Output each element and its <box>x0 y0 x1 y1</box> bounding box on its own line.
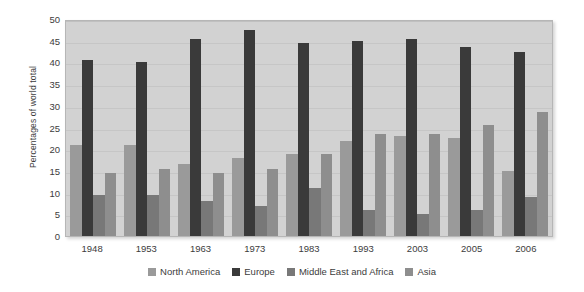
bar-group-2005 <box>444 21 498 236</box>
bar-europe-2005 <box>460 47 472 236</box>
x-axis-tick-labels: 194819531963197319831993200320052006 <box>65 243 553 254</box>
y-axis-tick-45: 45 <box>36 37 60 47</box>
y-axis-tick-40: 40 <box>36 59 60 69</box>
plot-area <box>65 20 553 237</box>
x-axis-tick-2005: 2005 <box>445 243 499 254</box>
bar-europe-1973 <box>244 30 256 236</box>
bar-group-2006 <box>498 21 552 236</box>
legend-swatch-icon <box>405 268 413 276</box>
bar-middle-east-and-africa-1973 <box>255 206 267 236</box>
y-axis-tick-5: 5 <box>36 211 60 221</box>
bar-asia-2006 <box>537 112 549 236</box>
bar-north-america-2005 <box>448 138 460 236</box>
bar-asia-2003 <box>429 134 441 236</box>
bar-slots <box>444 21 498 236</box>
bar-middle-east-and-africa-2005 <box>471 210 483 236</box>
legend-label: Asia <box>417 266 435 277</box>
legend-label: North America <box>160 266 220 277</box>
bar-europe-1948 <box>82 60 94 236</box>
bar-chart: Percentages of world total 5045403530252… <box>0 0 584 292</box>
bar-group-1993 <box>336 21 390 236</box>
bar-group-1983 <box>282 21 336 236</box>
y-axis-tick-35: 35 <box>36 80 60 90</box>
y-axis-tick-10: 10 <box>36 189 60 199</box>
bar-middle-east-and-africa-1963 <box>201 201 213 236</box>
bar-slots <box>336 21 390 236</box>
bar-group-2003 <box>390 21 444 236</box>
y-axis-tick-15: 15 <box>36 167 60 177</box>
x-axis-tick-2006: 2006 <box>499 243 553 254</box>
legend-label: Europe <box>244 266 275 277</box>
y-axis-tick-0: 0 <box>36 232 60 242</box>
bar-north-america-1993 <box>340 141 352 236</box>
bar-north-america-1948 <box>70 145 82 236</box>
bar-asia-1963 <box>213 173 225 236</box>
y-axis-tick-30: 30 <box>36 102 60 112</box>
bar-europe-1993 <box>352 41 364 236</box>
x-axis-tick-1973: 1973 <box>228 243 282 254</box>
bar-europe-2006 <box>514 52 526 236</box>
bar-asia-1953 <box>159 169 171 236</box>
bar-north-america-2003 <box>394 136 406 236</box>
bar-slots <box>66 21 120 236</box>
bar-middle-east-and-africa-1948 <box>93 195 105 236</box>
y-axis-tick-20: 20 <box>36 145 60 155</box>
bar-north-america-1973 <box>232 158 244 236</box>
legend-item-north-america[interactable]: North America <box>148 266 220 277</box>
legend-label: Middle East and Africa <box>299 266 394 277</box>
bar-europe-1963 <box>190 39 202 236</box>
bar-asia-1973 <box>267 169 279 236</box>
bar-slots <box>120 21 174 236</box>
bar-slots <box>174 21 228 236</box>
bar-group-1948 <box>66 21 120 236</box>
x-axis-tick-1983: 1983 <box>282 243 336 254</box>
x-axis-tick-1963: 1963 <box>173 243 227 254</box>
bar-asia-1993 <box>375 134 387 236</box>
bar-middle-east-and-africa-2003 <box>417 214 429 236</box>
bar-slots <box>498 21 552 236</box>
bar-middle-east-and-africa-2006 <box>525 197 537 236</box>
bar-asia-2005 <box>483 125 495 236</box>
x-axis-tick-1993: 1993 <box>336 243 390 254</box>
y-axis-tick-25: 25 <box>36 124 60 134</box>
bar-middle-east-and-africa-1993 <box>363 210 375 236</box>
legend-swatch-icon <box>287 268 295 276</box>
legend-item-asia[interactable]: Asia <box>405 266 435 277</box>
bar-north-america-1983 <box>286 154 298 236</box>
bar-north-america-2006 <box>502 171 514 236</box>
bar-group-1953 <box>120 21 174 236</box>
bars-layer <box>66 21 552 236</box>
bar-north-america-1963 <box>178 164 190 236</box>
y-axis-tick-50: 50 <box>36 15 60 25</box>
y-axis-tick-labels: 50454035302520151050 <box>36 20 60 237</box>
bar-europe-1983 <box>298 43 310 236</box>
x-axis-tick-2003: 2003 <box>390 243 444 254</box>
bar-slots <box>390 21 444 236</box>
legend-item-middle-east-and-africa[interactable]: Middle East and Africa <box>287 266 394 277</box>
legend-swatch-icon <box>232 268 240 276</box>
bar-north-america-1953 <box>124 145 136 236</box>
legend-item-europe[interactable]: Europe <box>232 266 275 277</box>
bar-middle-east-and-africa-1953 <box>147 195 159 236</box>
legend-swatch-icon <box>148 268 156 276</box>
bar-slots <box>228 21 282 236</box>
bar-group-1963 <box>174 21 228 236</box>
bar-slots <box>282 21 336 236</box>
x-axis-tick-1948: 1948 <box>65 243 119 254</box>
x-axis-tick-1953: 1953 <box>119 243 173 254</box>
bar-asia-1948 <box>105 173 117 236</box>
chart-legend: North AmericaEuropeMiddle East and Afric… <box>0 266 584 277</box>
bar-europe-2003 <box>406 39 418 236</box>
bar-middle-east-and-africa-1983 <box>309 188 321 236</box>
bar-group-1973 <box>228 21 282 236</box>
bar-europe-1953 <box>136 62 148 236</box>
bar-asia-1983 <box>321 154 333 236</box>
